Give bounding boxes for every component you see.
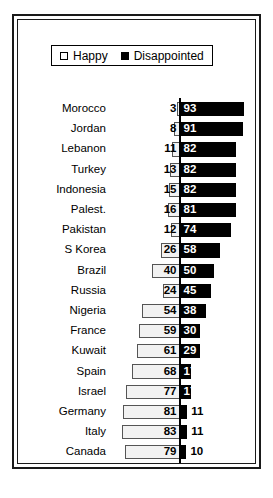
- center-axis-line: [179, 199, 181, 221]
- bar-value-disappointed: 45: [184, 285, 197, 297]
- bar-value-disappointed: 30: [184, 325, 197, 337]
- bar-track: 4050: [110, 262, 249, 280]
- category-label: Turkey: [18, 164, 106, 176]
- bar-track: 1274: [110, 221, 249, 239]
- bar-value-disappointed: 82: [184, 164, 197, 176]
- chart-row: Morocco393: [18, 99, 255, 119]
- bar-value-happy: 54: [164, 305, 177, 317]
- bar-track: 7717: [110, 383, 249, 401]
- category-label: Israel: [18, 386, 106, 398]
- bar-track: 8111: [110, 403, 249, 421]
- bar-track: 8311: [110, 423, 249, 441]
- chart-row: Lebanon1182: [18, 139, 255, 159]
- bar-value-disappointed: 17: [184, 366, 197, 378]
- bar-value-happy: 81: [164, 406, 177, 418]
- legend-entry-happy[interactable]: Happy: [60, 50, 108, 62]
- bar-value-disappointed: 29: [184, 346, 197, 358]
- bar-value-disappointed: 82: [184, 184, 197, 196]
- center-axis-line: [179, 360, 181, 382]
- chart-legend: HappyDisappointed: [51, 45, 213, 66]
- category-label: Canada: [18, 447, 106, 459]
- bar-value-happy: 59: [164, 325, 177, 337]
- bar-track: 1182: [110, 140, 249, 158]
- bar-value-happy: 13: [164, 164, 177, 176]
- center-axis-line: [179, 401, 181, 423]
- bar-track: 6817: [110, 362, 249, 380]
- category-label: Germany: [18, 406, 106, 418]
- center-axis-line: [179, 159, 181, 181]
- center-axis-line: [179, 441, 181, 463]
- bar-track: 2658: [110, 241, 249, 259]
- center-axis-line: [179, 320, 181, 342]
- chart-row: S Korea2658: [18, 240, 255, 260]
- bar-track: 1382: [110, 161, 249, 179]
- bar-disappointed[interactable]: [180, 445, 187, 459]
- category-label: Spain: [18, 366, 106, 378]
- bar-track: 393: [110, 100, 249, 118]
- center-axis-line: [179, 381, 181, 403]
- bar-track: 5438: [110, 302, 249, 320]
- bar-track: 2445: [110, 282, 249, 300]
- category-label: Indonesia: [18, 184, 106, 196]
- center-axis-line: [179, 118, 181, 140]
- chart-row: France5930: [18, 321, 255, 341]
- category-label: Kuwait: [18, 346, 106, 358]
- bar-value-happy: 24: [164, 285, 177, 297]
- bar-disappointed[interactable]: [180, 405, 188, 419]
- bar-track: 1681: [110, 201, 249, 219]
- chart-row: Israel7717: [18, 382, 255, 402]
- category-label: Jordan: [18, 124, 106, 136]
- bar-value-happy: 26: [164, 245, 177, 257]
- chart-outer-frame: Morocco393Jordan891Lebanon1182Turkey1382…: [12, 14, 261, 469]
- bar-value-disappointed: 93: [184, 103, 197, 115]
- bar-track: 891: [110, 120, 249, 138]
- center-axis-line: [179, 179, 181, 201]
- category-label: S Korea: [18, 245, 106, 257]
- bar-value-happy: 15: [164, 184, 177, 196]
- bar-value-happy: 12: [164, 224, 177, 236]
- bar-value-disappointed: 11: [187, 406, 203, 418]
- category-label: Pakistan: [18, 224, 106, 236]
- filled-square-marker: [121, 52, 129, 60]
- legend-entry-disappointed[interactable]: Disappointed: [121, 50, 204, 62]
- center-axis-line: [179, 98, 181, 120]
- chart-row: Turkey1382: [18, 160, 255, 180]
- category-label: Russia: [18, 285, 106, 297]
- chart-row: Jordan891: [18, 119, 255, 139]
- bar-value-happy: 16: [164, 204, 177, 216]
- center-axis-line: [179, 138, 181, 160]
- bar-value-disappointed: 91: [184, 124, 197, 136]
- bar-value-happy: 68: [164, 366, 177, 378]
- center-axis-line: [179, 421, 181, 443]
- bar-track: 6129: [110, 342, 249, 360]
- category-label: Nigeria: [18, 305, 106, 317]
- bar-value-disappointed: 74: [184, 224, 197, 236]
- bar-value-happy: 83: [164, 426, 177, 438]
- category-label: Italy: [18, 426, 106, 438]
- center-axis-line: [179, 239, 181, 261]
- bar-value-happy: 79: [164, 447, 177, 459]
- chart-row: Canada7910: [18, 442, 255, 462]
- bar-value-disappointed: 10: [186, 447, 203, 459]
- chart-row: Kuwait6129: [18, 341, 255, 361]
- bar-value-happy: 40: [164, 265, 177, 277]
- chart-row: Pakistan1274: [18, 220, 255, 240]
- bar-value-happy: 11: [164, 144, 176, 156]
- bar-value-disappointed: 58: [184, 245, 197, 257]
- center-axis-line: [179, 280, 181, 302]
- chart-row: Italy8311: [18, 422, 255, 442]
- chart-row: Brazil4050: [18, 261, 255, 281]
- open-square-marker: [60, 52, 68, 60]
- bar-disappointed[interactable]: [180, 425, 188, 439]
- chart-row: Spain6817: [18, 361, 255, 381]
- bar-rows-container: Morocco393Jordan891Lebanon1182Turkey1382…: [18, 99, 255, 462]
- bar-value-disappointed: 50: [184, 265, 197, 277]
- bar-value-disappointed: 11: [187, 426, 203, 438]
- category-label: France: [18, 325, 106, 337]
- plot-area: Morocco393Jordan891Lebanon1182Turkey1382…: [18, 20, 255, 463]
- center-axis-line: [179, 300, 181, 322]
- bar-track: 5930: [110, 322, 249, 340]
- bar-track: 1582: [110, 181, 249, 199]
- chart-row: Nigeria5438: [18, 301, 255, 321]
- center-axis-line: [179, 260, 181, 282]
